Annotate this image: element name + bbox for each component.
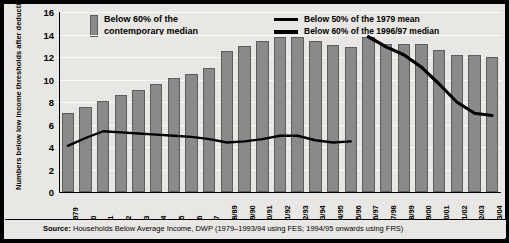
x-axis-line [59, 192, 501, 193]
y-tick-label: 0 [49, 187, 54, 198]
y-axis-title: Numbers below low income thresholds afte… [8, 12, 30, 192]
y-tick-mark [54, 147, 58, 148]
source-note: Source: Households Below Average Income,… [43, 224, 403, 233]
y-tick-label: 10 [43, 74, 54, 85]
y-tick-label: 2 [49, 164, 54, 175]
y-tick-mark [54, 169, 58, 170]
y-tick-label: 6 [49, 119, 54, 130]
y-tick-label: 12 [43, 52, 54, 63]
y-tick-label: 14 [43, 29, 54, 40]
chart-panel: Numbers below low income thresholds afte… [3, 3, 506, 240]
y-tick-label: 4 [49, 142, 54, 153]
plot-area: 0246810121416 [59, 12, 501, 192]
y-tick-mark [54, 192, 58, 193]
line-below-50-1979-mean [68, 131, 351, 146]
y-tick-mark [54, 124, 58, 125]
y-tick-label: 16 [43, 7, 54, 18]
y-axis-line [59, 12, 60, 192]
y-axis-title-text: Numbers below low income thresholds afte… [14, 14, 24, 190]
y-tick-mark [54, 12, 58, 13]
chart-figure: Numbers below low income thresholds afte… [0, 0, 509, 243]
line-series [59, 12, 501, 192]
y-tick-mark [54, 34, 58, 35]
chart-footer: Source: Households Below Average Income,… [5, 219, 506, 238]
y-tick-mark [54, 102, 58, 103]
line-below-60-1996-97-median [368, 37, 492, 116]
source-text: Households Below Average Income, DWP (19… [71, 224, 403, 233]
y-tick-mark [54, 79, 58, 80]
y-tick-mark [54, 57, 58, 58]
y-tick-label: 8 [49, 97, 54, 108]
source-prefix: Source: [43, 224, 71, 233]
